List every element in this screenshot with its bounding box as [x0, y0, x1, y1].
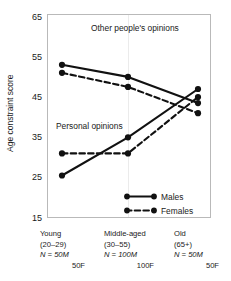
x-label-middle-name: Middle-aged [104, 229, 146, 238]
legend-marker-females-end [151, 208, 157, 214]
legend-marker-females-start [124, 208, 130, 214]
line-chart: Age constraint score 65 55 45 35 25 15 O… [0, 0, 231, 281]
y-tick-label-15: 15 [32, 213, 42, 223]
x-label-young-range: (20–29) [40, 240, 67, 249]
annotation-personal-opinions: Personal opinions [56, 121, 123, 131]
x-label-old-n: N = 50M [174, 250, 204, 259]
marker-other-males-middle [125, 74, 131, 80]
annotation-other-peoples-opinions: Other people's opinions [91, 23, 179, 33]
legend-label-males: Males [161, 192, 183, 202]
y-axis-title: Age constraint score [5, 74, 15, 152]
plot-frame [48, 15, 211, 218]
series-line-personal-males [62, 89, 198, 176]
x-label-old-n2: 50F [206, 261, 219, 270]
x-category-old: Old (65+) N = 50M 50F [174, 229, 219, 270]
marker-other-males-young [59, 62, 65, 68]
y-tick-label-55: 55 [32, 52, 42, 62]
x-category-young: Young (20–29) N = 50M 50F [40, 229, 85, 270]
y-tick-label-25: 25 [32, 172, 42, 182]
y-tick-label-65: 65 [32, 12, 42, 22]
x-label-old-range: (65+) [174, 240, 192, 249]
marker-personal-females-young [59, 150, 65, 156]
marker-personal-males-young [59, 172, 65, 178]
legend-marker-males-start [124, 194, 130, 200]
y-tick-label-45: 45 [32, 92, 42, 102]
x-category-middle-aged: Middle-aged (30–55) N = 100M 100F [104, 229, 154, 270]
chart-figure: Age constraint score 65 55 45 35 25 15 O… [0, 0, 231, 281]
marker-other-females-young [59, 70, 65, 76]
x-label-young-n2: 50F [72, 261, 85, 270]
marker-other-females-middle [125, 84, 131, 90]
y-tick-label-35: 35 [32, 132, 42, 142]
marker-other-males-old [195, 100, 201, 106]
marker-personal-males-middle [125, 134, 131, 140]
x-label-middle-range: (30–55) [104, 240, 131, 249]
marker-personal-females-old [195, 94, 201, 100]
x-label-old-name: Old [174, 229, 186, 238]
x-label-middle-n: N = 100M [104, 250, 138, 259]
legend-label-females: Females [161, 206, 193, 216]
legend: Males Females [124, 192, 193, 216]
x-label-young-name: Young [40, 229, 61, 238]
marker-personal-females-middle [125, 150, 131, 156]
marker-other-females-old [195, 110, 201, 116]
series-line-other-males [62, 65, 198, 103]
x-label-middle-n2: 100F [137, 261, 155, 270]
marker-personal-males-old [195, 86, 201, 92]
legend-marker-males-end [151, 194, 157, 200]
x-label-young-n: N = 50M [40, 250, 70, 259]
